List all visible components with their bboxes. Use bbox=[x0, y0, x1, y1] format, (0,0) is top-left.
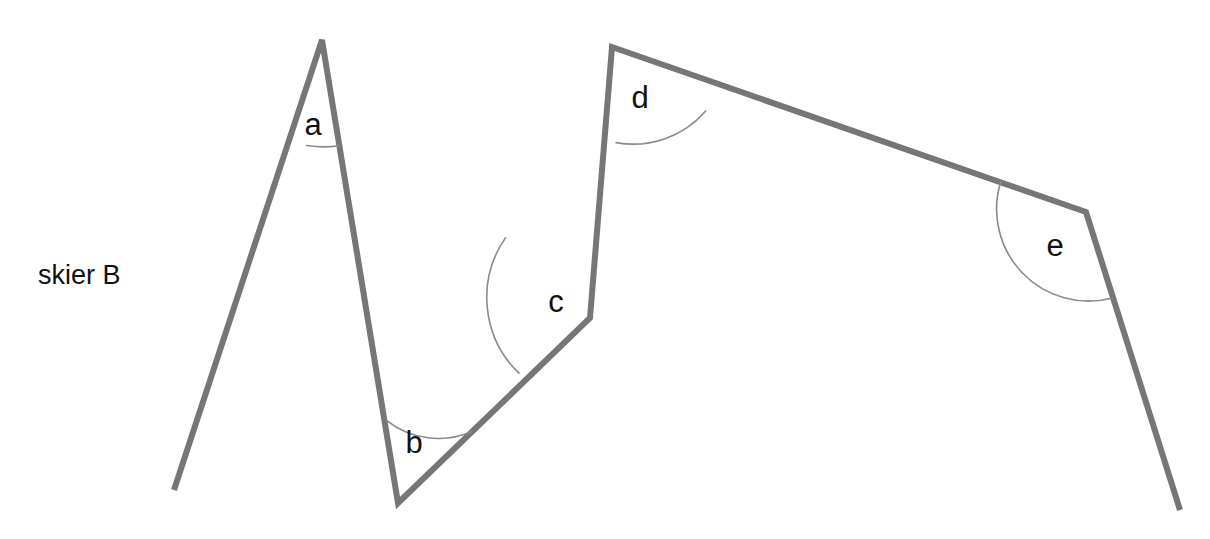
diagram-canvas: a b c d e skier B bbox=[0, 0, 1210, 539]
angle-arc-b bbox=[387, 421, 472, 439]
figure-caption: skier B bbox=[38, 260, 121, 290]
skier-angle-diagram: a b c d e skier B bbox=[0, 0, 1210, 539]
angle-label-b: b bbox=[405, 425, 422, 460]
angle-arc-a bbox=[307, 146, 340, 147]
angle-arc-c bbox=[487, 238, 519, 373]
angle-label-a: a bbox=[304, 107, 322, 142]
angle-label-d: d bbox=[631, 80, 648, 115]
angle-label-e: e bbox=[1046, 228, 1063, 263]
angle-arc-d bbox=[616, 111, 706, 144]
angle-label-c: c bbox=[548, 284, 564, 319]
skier-path-polyline bbox=[174, 40, 1180, 510]
